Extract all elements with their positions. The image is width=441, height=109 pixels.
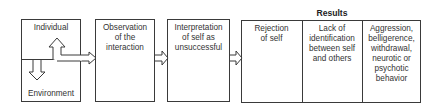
right-arrow-icon <box>230 51 242 65</box>
down-arrow-icon <box>29 60 45 80</box>
up-right-arrow-icon <box>49 38 96 64</box>
arrows-layer <box>0 0 441 109</box>
right-arrow-icon <box>155 51 168 65</box>
